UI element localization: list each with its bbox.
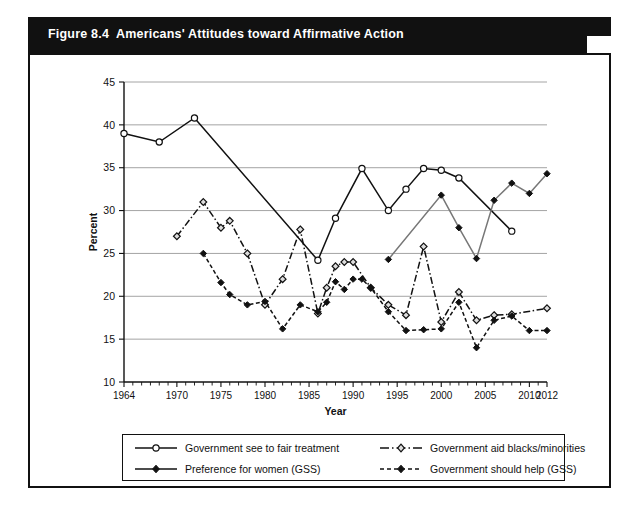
legend-item-2[interactable]: Preference for women (GSS)	[133, 459, 320, 479]
figure-banner: Figure 8.4 Americans' Attitudes toward A…	[28, 17, 611, 55]
legend-item-3[interactable]: Government should help (GSS)	[378, 459, 577, 479]
legend-symbol-open-circle-solid	[133, 441, 179, 455]
banner-notch	[587, 17, 611, 55]
source-note-sliver	[30, 497, 330, 508]
legend-symbol-open-diamond-dashdot	[378, 441, 424, 455]
figure-page: Figure 8.4 Americans' Attitudes toward A…	[0, 0, 635, 508]
legend-item-0[interactable]: Government see to fair treatment	[133, 438, 339, 458]
legend-symbol-filled-diamond-solid	[133, 462, 179, 476]
figure-title: Americans' Attitudes toward Affirmative …	[116, 27, 404, 41]
figure-card	[28, 55, 611, 488]
legend-label-2: Preference for women (GSS)	[185, 463, 320, 475]
banner-notch-fill	[587, 17, 611, 36]
legend-label-0: Government see to fair treatment	[185, 442, 339, 454]
legend-label-1: Government aid blacks/minorities	[430, 442, 585, 454]
legend-item-1[interactable]: Government aid blacks/minorities	[378, 438, 585, 458]
legend-label-3: Government should help (GSS)	[430, 463, 577, 475]
figure-number: Figure 8.4	[48, 27, 109, 41]
legend-symbol-filled-diamond-dashed	[378, 462, 424, 476]
chart-legend: Government see to fair treatment Governm…	[122, 434, 565, 481]
